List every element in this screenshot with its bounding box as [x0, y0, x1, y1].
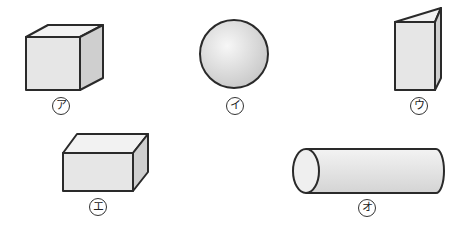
- cube-shape: [26, 25, 103, 90]
- triangular-prism-shape: [395, 8, 441, 90]
- cylinder-shape: [293, 149, 444, 193]
- rectangular-prism-shape: [63, 134, 148, 191]
- label-i: イ: [226, 97, 244, 115]
- label-a: ア: [52, 97, 70, 115]
- label-e: エ: [89, 198, 107, 216]
- sphere-shape: [200, 20, 268, 88]
- label-o: オ: [358, 199, 376, 217]
- label-u: ウ: [410, 97, 428, 115]
